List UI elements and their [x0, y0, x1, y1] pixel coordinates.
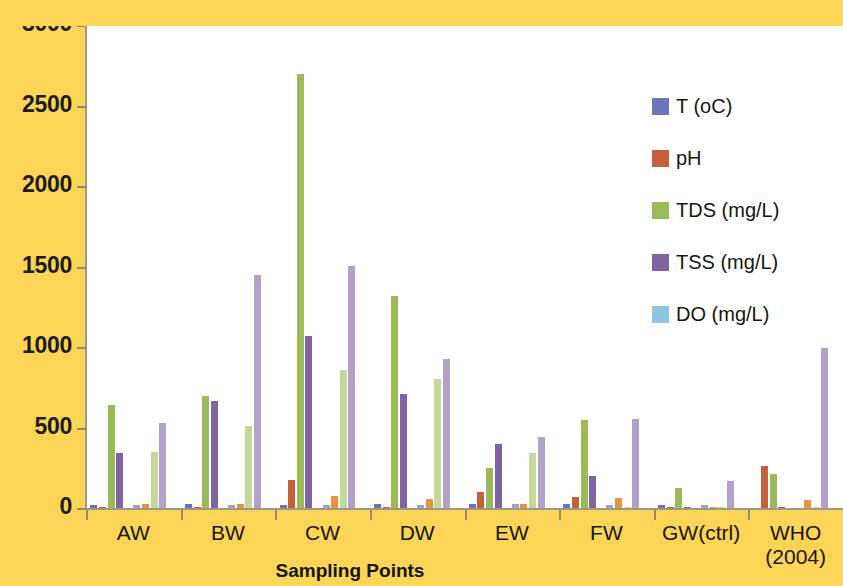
- legend-label: TDS (mg/L): [676, 199, 779, 222]
- bar: [245, 426, 252, 509]
- x-category-label: EW: [495, 521, 529, 545]
- top-banner: [0, 0, 843, 26]
- x-tick-mark: [559, 510, 561, 520]
- bar: [254, 275, 261, 509]
- x-tick-mark: [370, 510, 372, 520]
- x-category-label: WHO(2004): [765, 521, 826, 569]
- bar: [538, 437, 545, 509]
- bar: [288, 480, 295, 509]
- chart-container: 300025002000150010005000 AWBWCWDWEWFWGW(…: [0, 0, 843, 586]
- legend-item[interactable]: T (oC): [652, 80, 842, 132]
- y-tick-label: 500: [0, 413, 72, 440]
- bar: [632, 419, 639, 509]
- x-category-label-line1: FW: [590, 521, 623, 544]
- y-tick-label: 1500: [0, 252, 72, 279]
- x-category-label: FW: [590, 521, 623, 545]
- x-category-label-line1: EW: [495, 521, 529, 544]
- bar: [391, 296, 398, 509]
- bar: [202, 396, 209, 509]
- bar: [151, 452, 158, 509]
- legend-swatch-icon: [652, 98, 669, 115]
- x-category-label-line1: CW: [305, 521, 340, 544]
- x-category-label-line1: AW: [117, 521, 150, 544]
- bar: [108, 405, 115, 509]
- x-category-label: DW: [400, 521, 435, 545]
- bar: [821, 348, 828, 509]
- bar: [116, 453, 123, 509]
- legend-item[interactable]: pH: [652, 132, 842, 184]
- bar: [495, 444, 502, 509]
- x-tick-mark: [181, 510, 183, 520]
- legend-swatch-icon: [652, 254, 669, 271]
- legend-label: pH: [676, 147, 702, 170]
- legend-label: T (oC): [676, 95, 732, 118]
- legend-label: DO (mg/L): [676, 303, 769, 326]
- legend-item[interactable]: TSS (mg/L): [652, 236, 842, 288]
- x-axis-title: Sampling Points: [0, 560, 700, 582]
- bar: [727, 481, 734, 509]
- chart-legend: T (oC)pHTDS (mg/L)TSS (mg/L)DO (mg/L): [652, 80, 842, 340]
- x-category-label-line1: DW: [400, 521, 435, 544]
- bar: [589, 476, 596, 509]
- bar: [340, 370, 347, 509]
- y-tick-label: 1000: [0, 332, 72, 359]
- y-tick-label: 2500: [0, 91, 72, 118]
- y-tick-mark: [77, 267, 86, 269]
- bar: [761, 466, 768, 509]
- y-tick-mark: [77, 508, 86, 510]
- y-tick-mark: [77, 186, 86, 188]
- x-category-label: AW: [117, 521, 150, 545]
- bar: [529, 453, 536, 509]
- bar: [305, 336, 312, 509]
- bar: [770, 474, 777, 509]
- y-tick-mark: [77, 106, 86, 108]
- x-tick-mark: [748, 510, 750, 520]
- x-category-label-line1: WHO: [770, 521, 821, 544]
- legend-item[interactable]: DO (mg/L): [652, 288, 842, 340]
- y-tick-label: 0: [0, 493, 72, 520]
- x-tick-mark: [86, 510, 88, 520]
- x-category-label: GW(ctrl): [662, 521, 740, 545]
- bar: [211, 401, 218, 509]
- x-tick-mark: [275, 510, 277, 520]
- legend-item[interactable]: TDS (mg/L): [652, 184, 842, 236]
- bar: [486, 468, 493, 509]
- x-category-label-line1: BW: [211, 521, 245, 544]
- x-category-label: BW: [211, 521, 245, 545]
- y-tick-label: 2000: [0, 171, 72, 198]
- x-category-label: CW: [305, 521, 340, 545]
- y-tick-mark: [77, 347, 86, 349]
- bar: [477, 492, 484, 509]
- bar: [348, 266, 355, 509]
- top-right-banner: [831, 0, 843, 26]
- legend-label: TSS (mg/L): [676, 251, 778, 274]
- bar: [581, 420, 588, 509]
- y-tick-mark: [77, 428, 86, 430]
- x-tick-mark: [654, 510, 656, 520]
- bar: [159, 423, 166, 509]
- bar: [297, 74, 304, 509]
- bar: [400, 394, 407, 509]
- legend-swatch-icon: [652, 202, 669, 219]
- bar: [434, 379, 441, 509]
- bar: [675, 488, 682, 509]
- legend-swatch-icon: [652, 306, 669, 323]
- x-category-label-line2: (2004): [765, 545, 826, 569]
- x-tick-mark: [465, 510, 467, 520]
- x-category-label-line1: GW(ctrl): [662, 521, 740, 544]
- legend-swatch-icon: [652, 150, 669, 167]
- bar: [443, 359, 450, 509]
